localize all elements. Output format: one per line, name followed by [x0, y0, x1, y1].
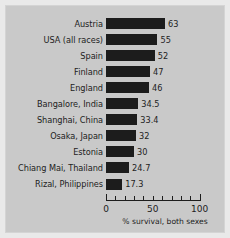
bar-value-label: 47 [153, 64, 163, 80]
bar [106, 130, 136, 141]
bar-chart-figure: Austria63USA (all races)55Spain52Finland… [0, 0, 230, 238]
x-axis-minor-tick [153, 196, 154, 201]
category-label: Finland [0, 64, 103, 80]
bar [106, 66, 150, 77]
category-label: Osaka, Japan [0, 128, 103, 144]
bar-value-label: 32 [139, 128, 149, 144]
bar-value-label: 52 [158, 48, 168, 64]
x-axis-start-cap [106, 194, 107, 201]
category-label: Austria [0, 16, 103, 32]
x-axis-minor-tick [172, 196, 173, 201]
x-axis-tick-label: 50 [138, 203, 168, 215]
bar-value-label: 24.7 [132, 160, 150, 176]
x-axis-minor-tick [162, 196, 163, 201]
x-axis-tick-label: 0 [91, 203, 121, 215]
bar [106, 162, 129, 173]
bar-row: Rizal, Philippines17.3 [6, 176, 226, 192]
bar-value-label: 30 [137, 144, 147, 160]
bar-row: Shanghai, China33.4 [6, 112, 226, 128]
x-axis-caption: % survival, both sexes [106, 217, 224, 226]
x-axis-minor-tick [125, 196, 126, 201]
category-label: USA (all races) [0, 32, 103, 48]
x-axis-end-cap [200, 194, 201, 201]
bar [106, 18, 165, 29]
bar-row: Estonia30 [6, 144, 226, 160]
category-label: Estonia [0, 144, 103, 160]
bar [106, 34, 157, 45]
category-label: Bangalore, India [0, 96, 103, 112]
bar [106, 82, 149, 93]
x-axis-minor-tick [143, 196, 144, 201]
bar-value-label: 34.5 [141, 96, 159, 112]
category-label: Rizal, Philippines [0, 176, 103, 192]
category-label: Chiang Mai, Thailand [0, 160, 103, 176]
bar-value-label: 63 [168, 16, 178, 32]
category-label: Spain [0, 48, 103, 64]
category-label: Shanghai, China [0, 112, 103, 128]
bar-value-label: 46 [152, 80, 162, 96]
bar-value-label: 55 [160, 32, 170, 48]
x-axis-tick-label: 100 [185, 203, 215, 215]
bar [106, 98, 138, 109]
bar-row: Austria63 [6, 16, 226, 32]
x-axis-minor-tick [134, 196, 135, 201]
bar [106, 179, 122, 190]
bar-row: Finland47 [6, 64, 226, 80]
bar-row: Chiang Mai, Thailand24.7 [6, 160, 226, 176]
bar-row: Osaka, Japan32 [6, 128, 226, 144]
bar [106, 50, 155, 61]
x-axis-minor-tick [190, 196, 191, 201]
bar-row: England46 [6, 80, 226, 96]
bar [106, 146, 134, 157]
bar-row: Bangalore, India34.5 [6, 96, 226, 112]
bar-row: USA (all races)55 [6, 32, 226, 48]
x-axis-minor-tick [115, 196, 116, 201]
bar-value-label: 17.3 [125, 176, 143, 192]
bar [106, 114, 137, 125]
bar-value-label: 33.4 [140, 112, 158, 128]
category-label: England [0, 80, 103, 96]
x-axis-minor-tick [181, 196, 182, 201]
plot-panel: Austria63USA (all races)55Spain52Finland… [5, 5, 225, 233]
bar-row: Spain52 [6, 48, 226, 64]
